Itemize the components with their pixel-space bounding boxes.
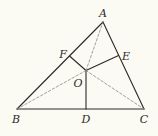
point-label-d: D (82, 114, 91, 125)
point-label-o: O (73, 78, 82, 89)
point-label-a: A (99, 8, 107, 19)
point-label-f: F (59, 49, 67, 60)
triangle-figure (0, 0, 158, 136)
side-ab (17, 22, 103, 109)
point-label-e: E (122, 51, 130, 62)
point-label-b: B (12, 114, 20, 125)
triangle-diagram: A B C D E F O (0, 0, 158, 136)
side-ca (103, 22, 144, 109)
segment-of (70, 56, 87, 71)
dashed-segment-oa (86, 22, 103, 71)
point-label-c: C (140, 114, 148, 125)
